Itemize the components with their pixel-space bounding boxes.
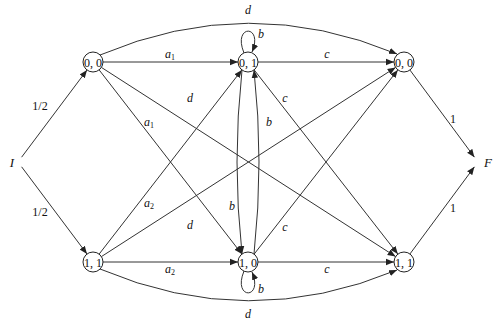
edge-label: b — [258, 27, 264, 41]
state-node: 0, 0 — [83, 52, 103, 72]
edge-label: b — [266, 115, 272, 129]
state-label: 1, 1 — [84, 256, 102, 270]
edge-label: d — [187, 91, 194, 105]
edge-label: d — [245, 3, 252, 17]
edge-label: 1/2 — [32, 205, 47, 219]
edge-label: a2 — [165, 262, 175, 277]
edge-label: c — [282, 220, 288, 234]
edge-label: a1 — [144, 115, 154, 130]
state-label: 1, 1 — [395, 256, 413, 270]
edge-label: c — [282, 91, 288, 105]
diagram-canvas: 0, 00, 10, 01, 11, 01, 1IF 1/21/2a1a1dda… — [0, 0, 499, 324]
state-label: 0, 1 — [239, 56, 257, 70]
edge-label: d — [187, 218, 194, 232]
edge-n10-to-n01 — [254, 70, 259, 254]
edge-label: c — [324, 262, 330, 276]
edge-label: c — [324, 47, 330, 61]
edge-label: b — [229, 199, 235, 213]
final-label: F — [483, 155, 493, 170]
edge-n00R-to-F — [410, 70, 474, 157]
state-label: 1, 0 — [239, 256, 257, 270]
nodes-layer: 0, 00, 10, 01, 11, 01, 1IF — [9, 52, 493, 272]
edge-label: d — [245, 307, 252, 321]
edge-I-to-n00L — [22, 70, 87, 157]
state-node: 1, 0 — [238, 252, 258, 272]
state-node: 0, 1 — [238, 52, 258, 72]
edge-n01-to-n10 — [237, 70, 242, 254]
state-node: 1, 1 — [394, 252, 414, 272]
edge-label: a1 — [165, 47, 175, 62]
state-node: 1, 1 — [83, 252, 103, 272]
edge-n01-to-n01 — [241, 31, 254, 53]
edge-label: a2 — [144, 196, 154, 211]
state-label: 0, 0 — [395, 56, 413, 70]
state-label: 0, 0 — [84, 56, 102, 70]
labels-layer: 1/21/2a1a1dda2a2ddbbbbcccc11 — [32, 3, 456, 321]
edge-label: b — [258, 282, 264, 296]
automaton-diagram: 0, 00, 10, 01, 11, 01, 1IF 1/21/2a1a1dda… — [0, 0, 499, 324]
edge-label: 1 — [450, 112, 456, 126]
initial-label: I — [9, 155, 15, 170]
state-node: 0, 0 — [394, 52, 414, 72]
edge-n10-to-n10 — [241, 271, 254, 293]
edge-n11R-to-F — [410, 167, 474, 254]
edge-n00L-to-n00R — [100, 23, 397, 55]
edge-n11L-to-n11R — [100, 269, 397, 301]
edge-label: 1 — [450, 201, 456, 215]
edge-label: 1/2 — [32, 99, 47, 113]
